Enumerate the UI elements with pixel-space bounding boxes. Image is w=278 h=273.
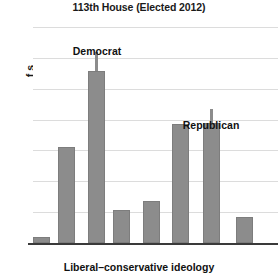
bar bbox=[203, 123, 220, 243]
y-axis-label-text: f s bbox=[24, 47, 33, 97]
x-axis-line bbox=[28, 243, 278, 245]
bar bbox=[88, 71, 105, 243]
x-axis-title: Liberal–conservative ideology bbox=[0, 261, 278, 273]
bar bbox=[58, 147, 75, 243]
bar-annotation: Democrat bbox=[73, 45, 121, 57]
bar bbox=[236, 217, 253, 243]
bar bbox=[143, 201, 160, 243]
bar-annotation: Republican bbox=[183, 119, 240, 131]
plot-area: f s 010203040506070 LiberalModerateConse… bbox=[33, 27, 278, 243]
y-axis-label-clipped: f s bbox=[19, 47, 33, 97]
bar bbox=[113, 210, 130, 243]
bar bbox=[172, 124, 189, 243]
chart-title: 113th House (Elected 2012) bbox=[0, 1, 278, 13]
chart-root: 113th House (Elected 2012) f s 010203040… bbox=[0, 0, 278, 273]
